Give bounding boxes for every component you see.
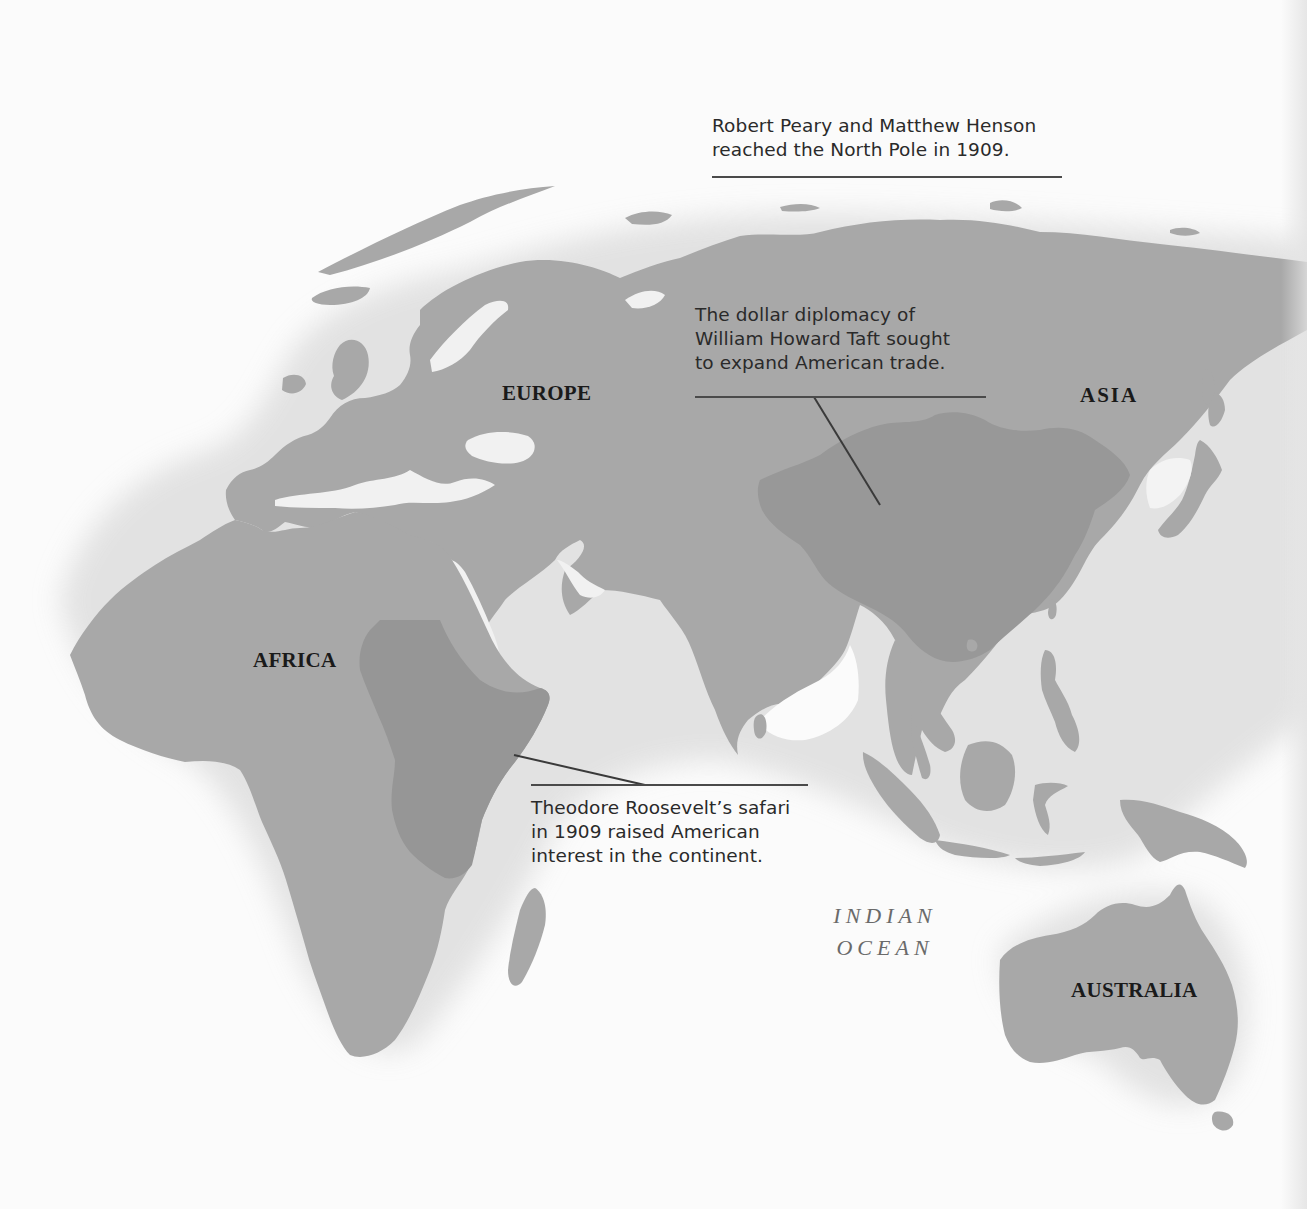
- tasmania-shape: [1212, 1112, 1233, 1131]
- taft-line2: William Howard Taft sought: [695, 327, 995, 351]
- world-map: Robert Peary and Matthew Henson reached …: [0, 0, 1307, 1209]
- roosevelt-rule: [531, 784, 808, 786]
- ocean-label-line1: INDIAN: [810, 900, 960, 932]
- roosevelt-annotation: Theodore Roosevelt’s safari in 1909 rais…: [531, 796, 821, 868]
- north-pole-line1: Robert Peary and Matthew Henson: [712, 114, 1072, 138]
- roosevelt-line2: in 1909 raised American: [531, 820, 821, 844]
- ocean-label-indian: INDIAN OCEAN: [810, 900, 960, 964]
- page-edge-shadow: [1281, 0, 1307, 1209]
- north-pole-rule: [712, 176, 1062, 178]
- taft-line1: The dollar diplomacy of: [695, 303, 995, 327]
- north-pole-line2: reached the North Pole in 1909.: [712, 138, 1072, 162]
- taft-line3: to expand American trade.: [695, 351, 995, 375]
- taft-rule: [695, 396, 986, 398]
- region-label-europe: EUROPE: [502, 381, 591, 406]
- region-label-africa: AFRICA: [253, 648, 336, 673]
- region-label-asia: ASIA: [1080, 383, 1138, 408]
- roosevelt-line3: interest in the continent.: [531, 844, 821, 868]
- region-label-australia: AUSTRALIA: [1071, 978, 1197, 1003]
- map-land-shapes: [0, 0, 1307, 1209]
- north-pole-annotation: Robert Peary and Matthew Henson reached …: [712, 114, 1072, 162]
- roosevelt-line1: Theodore Roosevelt’s safari: [531, 796, 821, 820]
- ocean-label-line2: OCEAN: [810, 932, 960, 964]
- taft-annotation: The dollar diplomacy of William Howard T…: [695, 303, 995, 375]
- borneo-shape: [960, 741, 1015, 811]
